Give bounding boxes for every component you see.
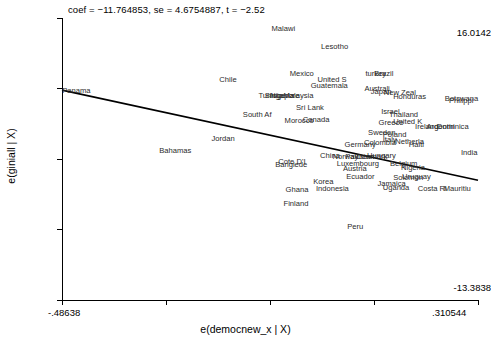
point-label: Panama [62,87,90,95]
point-label: Brazil [374,70,393,78]
point-label: Uganda [383,184,410,192]
point-label: Jordan [211,135,234,143]
point-label: Chile [219,76,236,84]
point-label: Germany [345,141,376,149]
point-label: Nigeria [401,164,425,172]
point-label: Bahamas [159,147,191,155]
point-label: Austria [343,165,367,173]
point-label: Honduras [393,93,426,101]
point-label: Mexico [290,70,314,78]
point-label: Ecuador [346,173,374,181]
point-label: Lesotho [321,43,348,51]
point-label: Sri Lank [296,104,324,112]
point-label: Costa Ri [418,185,447,193]
point-label: Dominica [437,123,469,131]
point-label: Haiti [409,141,424,149]
point-label: Peru [347,223,363,231]
added-variable-plot: coef = −11.764853, se = 4.6754887, t = −… [0,0,491,344]
point-label: Banglede [275,161,307,169]
point-label: Finland [284,200,309,208]
point-label: Malawi [272,25,296,33]
point-label: Indonesia [316,185,349,193]
point-label: Philippi [449,97,473,105]
point-label: India [461,149,477,157]
point-label: Guatemala [311,82,348,90]
point-label: Mauritiu [444,185,471,193]
point-label: Ghana [286,186,309,194]
point-label: Canada [303,116,330,124]
point-label: Malaysia [284,92,314,100]
point-label: South Af [243,111,272,119]
